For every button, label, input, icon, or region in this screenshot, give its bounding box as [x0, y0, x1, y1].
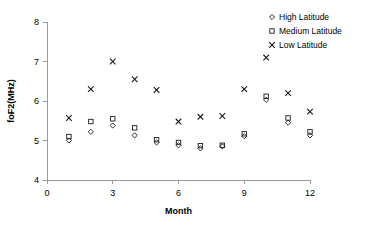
data-point — [220, 113, 226, 119]
data-point — [66, 115, 72, 121]
y-axis-title: foF2(MHz) — [6, 79, 16, 123]
data-point — [110, 123, 115, 128]
data-point — [111, 117, 115, 121]
data-point — [88, 129, 93, 134]
chart-canvas: 45678036912MonthfoF2(MHz)High LatitudeMe… — [0, 0, 373, 227]
data-point — [176, 119, 182, 125]
data-point — [89, 119, 93, 123]
legend-entry: High Latitude — [269, 12, 329, 22]
legend-marker-cross — [269, 42, 275, 48]
data-point — [110, 59, 116, 65]
x-axis-tick-label: 6 — [176, 188, 181, 198]
x-axis-tick-label: 3 — [110, 188, 115, 198]
x-axis-tick-label: 9 — [242, 188, 247, 198]
y-axis-tick-label: 4 — [34, 175, 39, 185]
legend-marker-square — [270, 29, 274, 33]
legend-label: Medium Latitude — [279, 26, 342, 36]
scatter-chart: 45678036912MonthfoF2(MHz)High LatitudeMe… — [0, 0, 373, 227]
data-point — [132, 126, 136, 130]
data-point — [285, 90, 291, 96]
series-diamond — [66, 97, 312, 151]
data-point — [132, 76, 138, 82]
legend-entry: Low Latitude — [269, 40, 327, 50]
x-axis-tick-label: 0 — [44, 188, 49, 198]
legend-marker-diamond — [269, 14, 274, 19]
data-point — [241, 86, 247, 92]
x-axis-tick-label: 12 — [305, 188, 315, 198]
y-axis-tick-label: 6 — [34, 96, 39, 106]
data-point — [285, 120, 290, 125]
x-axis-title: Month — [165, 206, 192, 216]
data-point — [198, 114, 204, 120]
series-square — [67, 94, 312, 148]
legend-entry: Medium Latitude — [270, 26, 342, 36]
data-point — [88, 86, 94, 92]
series-cross — [66, 55, 313, 125]
legend-label: High Latitude — [279, 12, 329, 22]
data-point — [263, 55, 269, 61]
legend-label: Low Latitude — [279, 40, 327, 50]
y-axis-tick-label: 8 — [34, 17, 39, 27]
data-point — [154, 87, 160, 93]
y-axis-tick-label: 7 — [34, 57, 39, 67]
data-point — [307, 109, 313, 115]
data-point — [132, 133, 137, 138]
y-axis-tick-label: 5 — [34, 136, 39, 146]
